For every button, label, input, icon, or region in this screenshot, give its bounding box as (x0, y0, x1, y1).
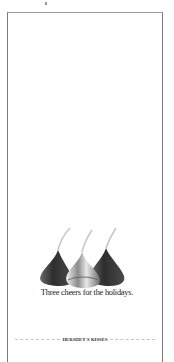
brand-footer: HERSHEY'S KISSES (15, 335, 155, 343)
kisses-illustration (36, 226, 132, 288)
crop-mark (45, 2, 47, 5)
brand-logo: HERSHEY'S KISSES (60, 337, 109, 342)
kiss-foil-center-icon (66, 230, 100, 288)
tagline: Three cheers for the holidays. (0, 288, 174, 297)
advertisement-frame (7, 12, 163, 362)
divider-right (110, 339, 155, 340)
divider-left (15, 339, 60, 340)
